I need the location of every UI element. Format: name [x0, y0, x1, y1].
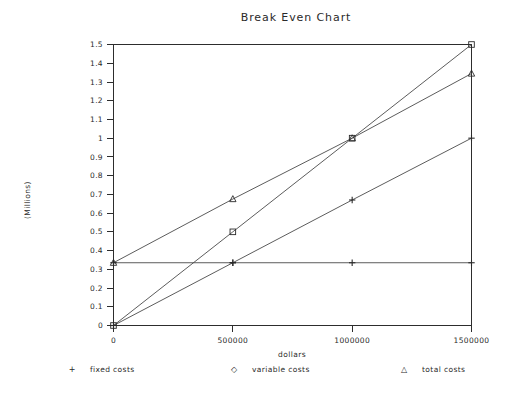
legend-label-variable-costs: variable costs	[252, 365, 310, 374]
x-tick-label: 500000	[217, 336, 248, 345]
y-tick-label: 0.6	[90, 209, 103, 218]
legend-label-total-costs: total costs	[422, 365, 465, 374]
y-tick-label: 0	[98, 321, 103, 330]
x-tick-label: 1000000	[334, 336, 370, 345]
x-axis-title: dollars	[278, 350, 306, 359]
y-tick-label: 1.1	[90, 115, 103, 124]
y-tick-label: 0.5	[90, 227, 103, 236]
y-axis-title: (Millions)	[23, 181, 32, 219]
y-tick-label: 1.2	[90, 96, 103, 105]
y-tick-label: 1.3	[90, 78, 103, 87]
legend-marker-fixed-costs: +	[69, 365, 76, 374]
legend-marker-variable-costs: ◇	[231, 365, 238, 374]
y-tick-label: 0.7	[90, 190, 103, 199]
x-tick-label: 0	[111, 336, 116, 345]
x-tick-label: 1500000	[454, 336, 490, 345]
y-tick-label: 0.9	[90, 153, 103, 162]
y-tick-label: 0.3	[90, 265, 103, 274]
chart-background	[0, 0, 508, 393]
break-even-chart: Break Even Chart (Millions) dollars 1.5 …	[0, 0, 508, 393]
chart-canvas: Break Even Chart (Millions) dollars 1.5 …	[0, 0, 508, 393]
y-tick-label: 1.4	[90, 59, 103, 68]
y-tick-label: 1.5	[90, 40, 103, 49]
y-tick-label: 0.4	[90, 246, 103, 255]
y-tick-label: 0.1	[90, 302, 103, 311]
legend: + fixed costs ◇ variable costs △ total c…	[69, 365, 466, 374]
legend-label-fixed-costs: fixed costs	[90, 365, 135, 374]
y-tick-label: 0.8	[90, 171, 103, 180]
y-tick-label: 0.2	[90, 284, 103, 293]
chart-title: Break Even Chart	[241, 11, 352, 24]
legend-marker-total-costs: △	[401, 365, 408, 374]
y-tick-label: 1	[98, 134, 103, 143]
